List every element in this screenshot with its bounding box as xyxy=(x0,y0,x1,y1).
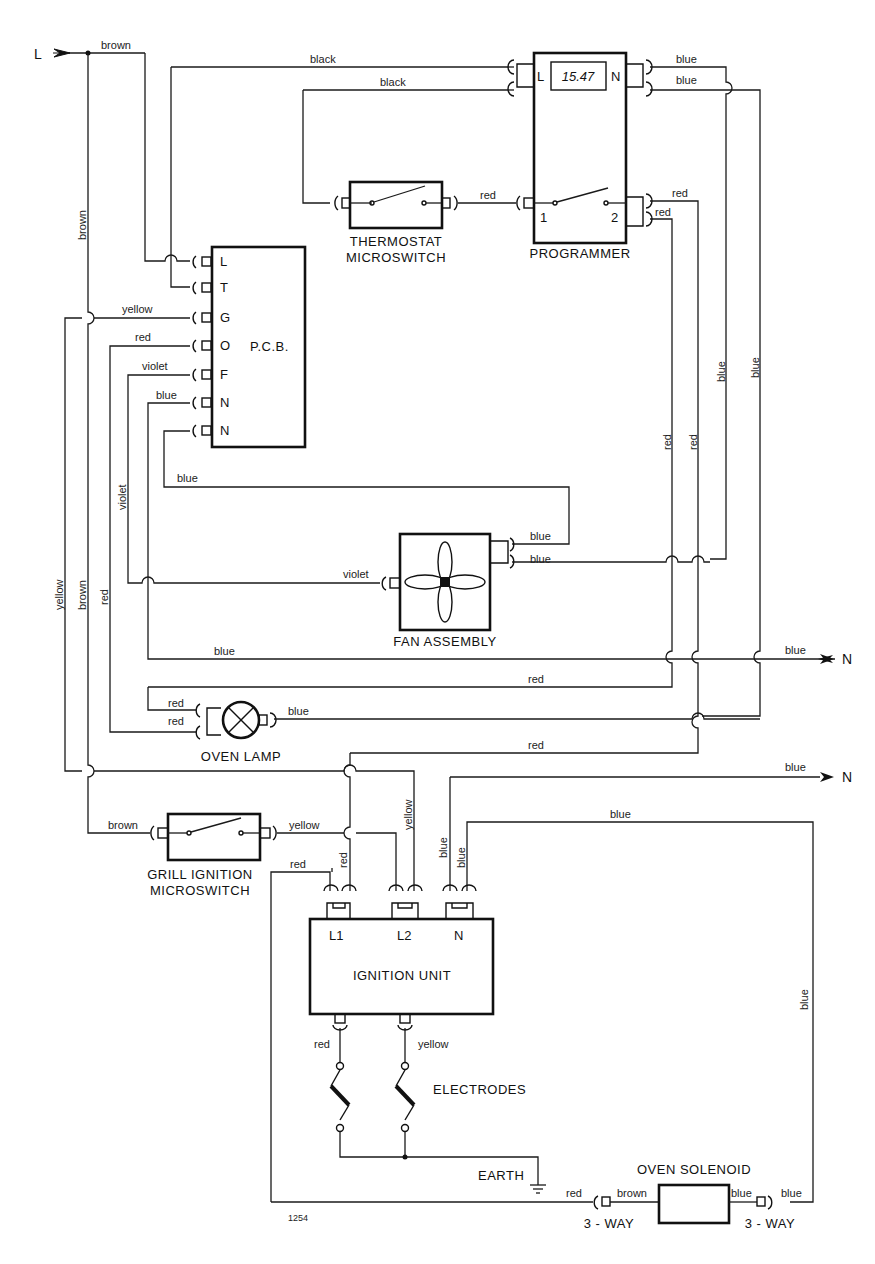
wire-label: blue xyxy=(288,705,309,717)
grill-switch-label-line2: MICROSWITCH xyxy=(150,883,250,898)
wire-label: blue xyxy=(214,645,235,657)
wire-label: blue xyxy=(676,53,697,65)
grill-switch-label-line1: GRILL IGNITION xyxy=(147,867,252,882)
wire-label: blue xyxy=(530,530,551,542)
pcb-pin-n2: N xyxy=(220,423,229,438)
wiring-diagram: L brown brown brown black black THERMOST… xyxy=(0,0,875,1264)
wire-label: yellow xyxy=(418,1038,449,1050)
wire-label: red xyxy=(98,589,110,605)
earth-label: EARTH xyxy=(478,1168,524,1183)
programmer-pin-2: 2 xyxy=(611,210,618,225)
thermostat-microswitch: THERMOSTAT MICROSWITCH xyxy=(335,182,457,265)
pcb-pin-connectors xyxy=(193,256,211,437)
pcb-pin-f: F xyxy=(220,367,228,382)
wire-label: red xyxy=(687,434,699,450)
wire-label: red xyxy=(314,1038,330,1050)
wire-label: yellow xyxy=(289,819,320,831)
wire-label: blue xyxy=(798,989,810,1010)
wire-label: blue xyxy=(177,472,198,484)
wire-label: red xyxy=(655,206,671,218)
programmer-pin-1: 1 xyxy=(540,210,547,225)
supply-live-label: L xyxy=(34,46,42,62)
oven-solenoid-label: OVEN SOLENOID xyxy=(637,1162,751,1177)
wire-label: red xyxy=(672,187,688,199)
oven-lamp-label: OVEN LAMP xyxy=(201,749,281,764)
wire-label: yellow xyxy=(53,579,65,610)
wire-label: brown xyxy=(76,210,88,240)
ignition-unit-label: IGNITION UNIT xyxy=(353,968,451,983)
supply-live-terminal: L brown xyxy=(34,39,145,62)
wire-label: red xyxy=(661,434,673,450)
wire-label: black xyxy=(380,76,406,88)
electrodes: ELECTRODES xyxy=(331,1028,538,1185)
wire-label: brown xyxy=(617,1187,647,1199)
wire-label: blue xyxy=(785,644,806,656)
connector-3way-left: 3 - WAY xyxy=(584,1216,634,1231)
fan-assembly: FAN ASSEMBLY xyxy=(382,534,514,649)
wire-label: red xyxy=(135,331,151,343)
wire-label: red xyxy=(566,1187,582,1199)
wire-label: red xyxy=(290,858,306,870)
arrow-icon xyxy=(820,772,834,782)
programmer-label: PROGRAMMER xyxy=(529,246,630,261)
thermostat-label-line2: MICROSWITCH xyxy=(346,250,446,265)
pcb-pin-g: G xyxy=(220,310,230,325)
wire-label: violet xyxy=(142,360,168,372)
wire-label: violet xyxy=(116,484,128,510)
pcb-pin-l: L xyxy=(220,254,227,269)
wire-label: brown xyxy=(76,580,88,610)
ignition-unit: L1 L2 N IGNITION UNIT xyxy=(310,868,493,1030)
wire-label: red xyxy=(528,673,544,685)
programmer: L 15.47 N 1 2 PROGRAMMER xyxy=(508,53,652,261)
electrodes-label: ELECTRODES xyxy=(433,1082,526,1097)
pcb: L T G O F N N P.C.B. xyxy=(193,247,305,447)
wire-label: blue xyxy=(437,837,449,858)
wire-label: blue xyxy=(731,1187,752,1199)
wire-label: red xyxy=(168,715,184,727)
wire-label: red xyxy=(337,852,349,868)
wire-label: blue xyxy=(676,74,697,86)
wire-label: blue xyxy=(749,357,761,378)
wire-label: red xyxy=(480,189,496,201)
programmer-pin-n: N xyxy=(611,69,620,84)
wire-label: blue xyxy=(530,553,551,565)
wire-label: violet xyxy=(343,568,369,580)
junction-dot xyxy=(403,1155,408,1160)
thermostat-label-line1: THERMOSTAT xyxy=(350,234,443,249)
wire-label: red xyxy=(528,739,544,751)
oven-solenoid: red brown blue blue OVEN SOLENOID 3 - WA… xyxy=(566,1162,802,1231)
earth-symbol: EARTH xyxy=(478,1168,546,1193)
programmer-pin-l: L xyxy=(537,69,544,84)
wire-label: yellow xyxy=(402,799,414,830)
wire-label: brown xyxy=(108,819,138,831)
wire-label: red xyxy=(168,697,184,709)
pcb-pin-o: O xyxy=(220,338,230,353)
fan-label: FAN ASSEMBLY xyxy=(393,634,496,649)
wire-label: blue xyxy=(455,847,467,868)
wire-label: blue xyxy=(156,389,177,401)
ignition-pin-l1: L1 xyxy=(329,928,343,943)
wire-label: blue xyxy=(781,1187,802,1199)
wire-label: blue xyxy=(610,808,631,820)
reference-number: 1254 xyxy=(288,1213,308,1223)
programmer-display: 15.47 xyxy=(562,69,595,84)
connector-3way-right: 3 - WAY xyxy=(745,1216,795,1231)
neutral-terminal-top: N xyxy=(842,651,852,667)
pcb-label: P.C.B. xyxy=(250,339,289,354)
neutral-terminal-bottom: N xyxy=(842,769,852,785)
wire-label: blue xyxy=(785,761,806,773)
pcb-pin-n1: N xyxy=(220,395,229,410)
wire-label: yellow xyxy=(122,303,153,315)
oven-lamp: OVEN LAMP xyxy=(196,702,281,764)
grill-ignition-microswitch: GRILL IGNITION MICROSWITCH xyxy=(147,814,276,898)
wire-label: blue xyxy=(715,361,727,382)
ignition-pin-n: N xyxy=(454,928,463,943)
wire-label: black xyxy=(310,53,336,65)
pcb-pin-t: T xyxy=(220,280,228,295)
wire-label: brown xyxy=(101,39,131,51)
arrow-icon xyxy=(53,49,70,57)
ignition-pin-l2: L2 xyxy=(397,928,411,943)
